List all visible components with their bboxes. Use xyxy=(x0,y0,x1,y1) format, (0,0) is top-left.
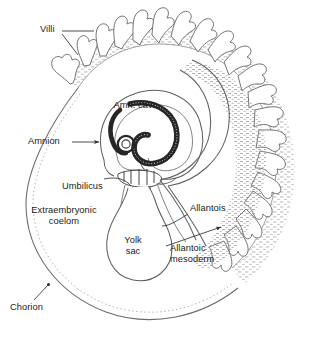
label-allantoic-mesoderm-line2: mesoderm xyxy=(170,254,214,265)
embryology-diagram-figure: Villi Amn. cav. Amnion Umbilicus Extraem… xyxy=(0,0,318,345)
label-amnion: Amnion xyxy=(28,136,60,147)
label-amniotic-cavity: Amn. cav. xyxy=(104,100,164,111)
label-extraembryonic-coelom-line2: coelom xyxy=(16,216,112,227)
label-umbilicus: Umbilicus xyxy=(62,181,103,192)
label-yolk-sac-line1: Yolk xyxy=(116,235,150,246)
label-allantois: Allantois xyxy=(190,203,226,214)
label-villi: Villi xyxy=(40,24,55,35)
label-chorion: Chorion xyxy=(10,302,43,313)
label-extraembryonic-coelom-line1: Extraembryonic xyxy=(16,205,112,216)
yolk-sac xyxy=(107,186,172,281)
amnion-reflection-left xyxy=(104,160,114,176)
label-yolk-sac-line2: sac xyxy=(116,246,150,257)
label-allantoic-mesoderm-line1: Allantoic xyxy=(170,243,206,254)
leader-villi-b xyxy=(62,34,78,55)
leader-chorion xyxy=(34,285,48,300)
diagram-canvas xyxy=(0,0,318,345)
